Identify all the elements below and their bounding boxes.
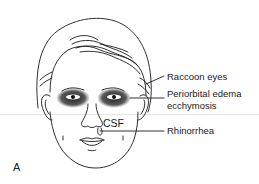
right-ear [138, 95, 149, 120]
label-raccoon-eyes: Raccoon eyes [167, 72, 227, 82]
label-ecchymosis: ecchymosis [167, 101, 217, 111]
label-rhinorrhea: Rhinorrhea [167, 126, 214, 136]
leader-raccoon [146, 76, 164, 84]
upper-lip [80, 138, 104, 140]
label-csf: CSF [103, 118, 124, 129]
nose [81, 104, 102, 128]
hairline [50, 46, 146, 96]
csf-drop [98, 128, 102, 135]
panel-label: A [13, 161, 20, 173]
mouth-line [80, 140, 104, 142]
label-periorbital-edema: Periorbital edema [167, 89, 241, 99]
